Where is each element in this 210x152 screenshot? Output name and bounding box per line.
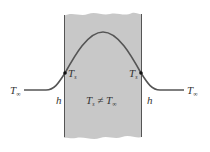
label-ts-neq-tinf: Ts ≠ T∞ (86, 95, 116, 107)
label-t-inf-left: T∞ (10, 85, 20, 97)
label-ts-right: Ts (129, 68, 137, 80)
label-h-left: h (56, 95, 62, 106)
surface-point-right (139, 71, 143, 75)
label-t-inf-right: T∞ (187, 85, 197, 97)
slab-diagram (0, 0, 210, 152)
label-ts-left: Ts (68, 68, 76, 80)
surface-point-left (63, 71, 67, 75)
label-h-right: h (147, 95, 153, 106)
